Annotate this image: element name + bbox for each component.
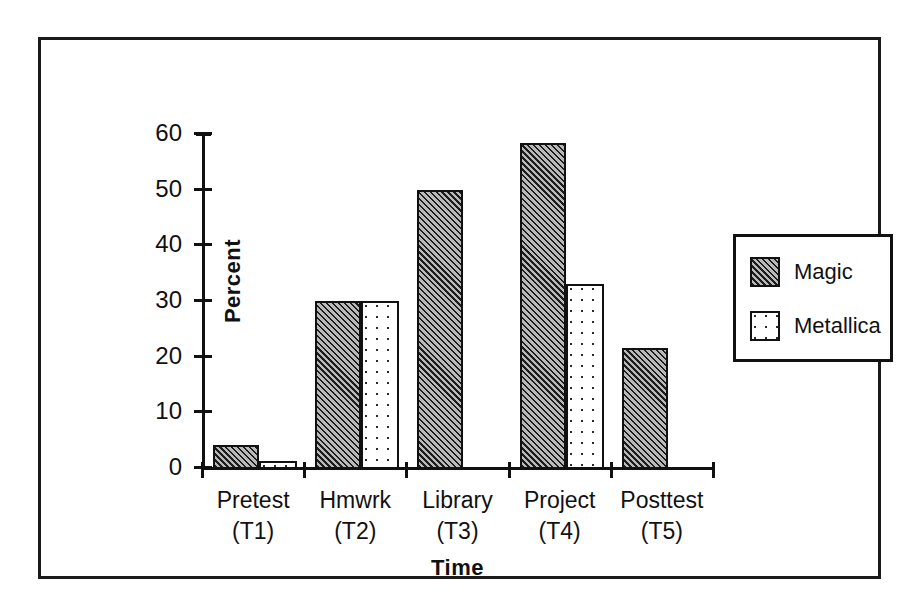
y-tick-label: 50 [155, 177, 182, 201]
y-tick [194, 132, 212, 135]
category-label-line2: (T5) [599, 516, 725, 547]
bar-metallica-3 [566, 284, 604, 469]
y-tick [194, 355, 212, 358]
bar-magic-2 [417, 190, 463, 469]
x-tick [712, 462, 715, 478]
chart-figure: Percent Time 0102030405060 Pretest(T1)Hm… [0, 0, 912, 613]
x-tick [405, 462, 408, 478]
x-tick [508, 462, 511, 478]
category-label-line1: Posttest [599, 485, 725, 516]
y-tick-label: 0 [169, 455, 182, 479]
y-tick-label: 60 [155, 121, 182, 145]
x-tick [610, 462, 613, 478]
legend-item-magic: Magic [750, 255, 853, 289]
legend: Magic Metallica [733, 234, 893, 362]
bar-magic-0 [213, 445, 259, 469]
plot-area [202, 133, 713, 469]
legend-swatch-magic-icon [750, 257, 780, 287]
y-tick [194, 410, 212, 413]
legend-item-metallica: Metallica [750, 309, 881, 343]
legend-label-metallica: Metallica [794, 313, 881, 339]
x-tick [303, 462, 306, 478]
y-tick-label: 40 [155, 232, 182, 256]
y-tick-label: 10 [155, 399, 182, 423]
y-tick-label: 30 [155, 288, 182, 312]
bar-metallica-0 [259, 461, 297, 469]
bar-magic-1 [315, 301, 361, 469]
figure-frame: Percent Time 0102030405060 Pretest(T1)Hm… [38, 37, 881, 579]
legend-label-magic: Magic [794, 259, 853, 285]
y-tick-label: 20 [155, 344, 182, 368]
bar-magic-3 [520, 143, 566, 469]
y-tick [194, 243, 212, 246]
x-tick [201, 462, 204, 478]
legend-swatch-metallica-icon [750, 311, 780, 341]
x-axis-title: Time [202, 555, 713, 581]
bar-metallica-1 [361, 301, 399, 469]
category-label-5: Posttest(T5) [599, 485, 725, 547]
bar-magic-4 [622, 348, 668, 469]
y-tick [194, 188, 212, 191]
y-tick [194, 299, 212, 302]
